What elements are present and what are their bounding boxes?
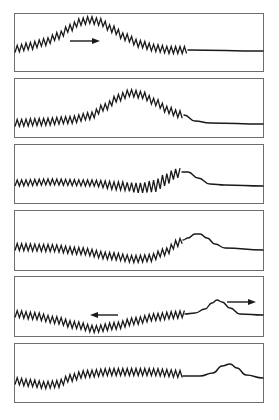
panel-2 <box>15 79 264 138</box>
panel-frame <box>15 145 264 204</box>
wave-reflection-diagram <box>0 0 279 420</box>
diagram-canvas <box>0 0 279 420</box>
panel-6 <box>15 344 264 403</box>
panels-group <box>15 14 264 403</box>
panel-frame <box>15 79 264 138</box>
panel-frame <box>15 14 264 72</box>
panel-3 <box>15 145 264 204</box>
panel-1 <box>15 14 264 72</box>
panel-5 <box>15 277 264 337</box>
panel-frame <box>15 277 264 337</box>
panel-4 <box>15 211 264 271</box>
